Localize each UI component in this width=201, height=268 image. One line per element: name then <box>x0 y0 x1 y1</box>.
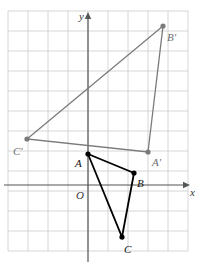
triangle-a-prime-b-prime-c-prime <box>27 26 163 152</box>
vertex-dot-b-prime <box>160 23 165 28</box>
vertex-dot-b <box>131 170 136 175</box>
vertex-label-c: C <box>124 243 132 255</box>
vertex-label-b-prime: B' <box>167 31 177 43</box>
triangles-layer <box>27 26 163 237</box>
vertex-dot-a <box>85 151 90 156</box>
x-axis-label: x <box>189 186 195 198</box>
vertex-label-a-prime: A' <box>151 156 162 168</box>
vertex-markers-layer <box>24 23 165 239</box>
origin-label: O <box>76 189 84 201</box>
vertex-dot-c-prime <box>24 136 29 141</box>
figure-canvas: xyOABCA'B'C' <box>0 0 201 268</box>
vertex-label-c-prime: C' <box>13 145 23 157</box>
coordinate-axes <box>4 12 190 262</box>
x-axis-arrowhead <box>183 182 190 188</box>
vertex-dot-c <box>119 234 124 239</box>
vertex-dot-a-prime <box>145 149 150 154</box>
y-axis-label: y <box>78 10 84 22</box>
vertex-label-b: B <box>137 177 144 189</box>
y-axis-arrowhead <box>85 12 91 19</box>
geometry-figure: xyOABCA'B'C' <box>0 0 201 268</box>
vertex-label-a: A <box>74 157 82 169</box>
triangle-abc <box>88 154 134 237</box>
